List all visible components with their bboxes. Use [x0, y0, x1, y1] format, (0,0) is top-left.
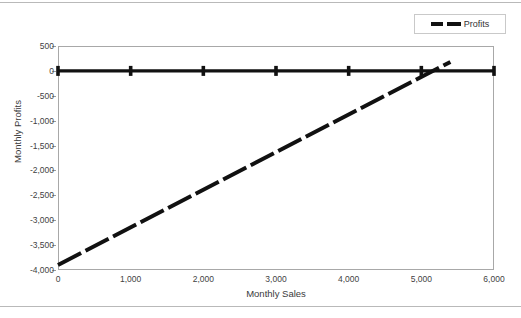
y-axis-title: Monthly Profits — [12, 72, 23, 192]
data-point-marker — [129, 66, 133, 76]
y-axis-tick-label: -3,500 — [10, 240, 54, 250]
plot-area — [58, 46, 494, 270]
x-axis-tick-label: 1,000 — [120, 274, 141, 284]
x-axis-tick-label: 3,000 — [265, 274, 286, 284]
data-point-marker — [347, 66, 351, 76]
legend-item-profits: Profits — [431, 20, 490, 29]
x-axis-tick-label: 6,000 — [483, 274, 504, 284]
y-axis-tick-label: -4,000 — [10, 265, 54, 275]
page-rule-bottom — [0, 306, 521, 307]
x-axis-tick-label: 4,000 — [338, 274, 359, 284]
y-axis-tick-label: 500 — [10, 41, 54, 51]
series-profits — [58, 62, 450, 265]
y-axis-tick-label: -2,500 — [10, 190, 54, 200]
legend-swatch-dashed-icon — [431, 22, 461, 26]
y-axis-tick-label: -3,000 — [10, 215, 54, 225]
series-layer — [58, 46, 494, 270]
data-point-marker — [492, 66, 496, 76]
x-axis-tick-labels: 01,0002,0003,0004,0005,0006,000 — [58, 274, 494, 288]
data-point-marker — [56, 66, 60, 76]
x-axis-tick-label: 5,000 — [411, 274, 432, 284]
legend-label: Profits — [464, 20, 490, 29]
chart-legend: Profits — [414, 14, 506, 34]
x-axis-tick-label: 0 — [56, 274, 61, 284]
data-point-marker — [202, 66, 206, 76]
x-axis-title: Monthly Sales — [58, 288, 494, 299]
page-rule-top — [0, 2, 521, 3]
x-axis-tick-label: 2,000 — [193, 274, 214, 284]
data-point-marker — [274, 66, 278, 76]
